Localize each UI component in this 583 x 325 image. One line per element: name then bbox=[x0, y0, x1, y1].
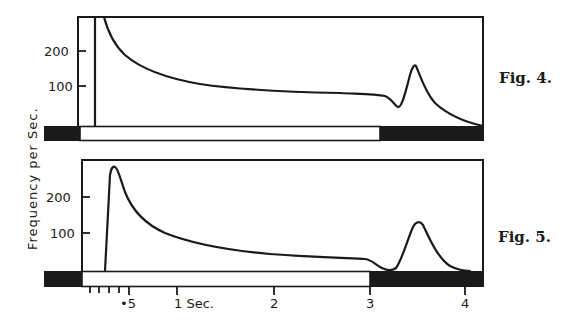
fig5-frequency-curve bbox=[105, 167, 470, 271]
fig4-light-bar bbox=[80, 127, 380, 141]
fig5-chart: 200 100 Fig. 5. bbox=[44, 160, 551, 287]
figure-canvas: 200 100 Fig. 4. 200 100 Fig. 5. •5 bbox=[0, 0, 583, 325]
y-axis-label: Frequency per Sec. bbox=[25, 107, 40, 250]
xtick-label-4: 4 bbox=[461, 296, 469, 311]
fig4-chart: 200 100 Fig. 4. bbox=[44, 17, 552, 141]
fig5-dark-bar-before bbox=[44, 271, 82, 287]
x-axis: •5 1 Sec. 2 3 4 bbox=[90, 287, 469, 311]
fig4-dark-bar-before bbox=[44, 126, 80, 141]
fig4-frame bbox=[78, 17, 483, 126]
xtick-label-2: 2 bbox=[270, 296, 278, 311]
fig4-label: Fig. 4. bbox=[499, 69, 552, 87]
fig4-ytick-label-100: 100 bbox=[48, 79, 73, 94]
fig5-dark-bar-after bbox=[370, 271, 484, 287]
xtick-label-1: 1 Sec. bbox=[174, 296, 214, 311]
fig4-dark-bar-after bbox=[380, 126, 484, 141]
fig5-ytick-label-100: 100 bbox=[50, 226, 75, 241]
fig4-ytick-label-200: 200 bbox=[44, 44, 69, 59]
xtick-label-0.5: •5 bbox=[120, 296, 136, 311]
fig5-label: Fig. 5. bbox=[498, 228, 551, 246]
fig5-light-bar bbox=[82, 272, 370, 287]
xtick-label-3: 3 bbox=[366, 296, 374, 311]
fig5-ytick-label-200: 200 bbox=[46, 190, 71, 205]
fig4-frequency-curve bbox=[104, 17, 483, 126]
